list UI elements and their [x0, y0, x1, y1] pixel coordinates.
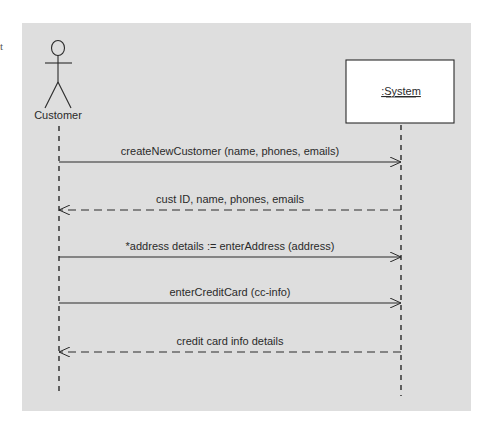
actor-label: Customer [34, 109, 82, 121]
message-enter-address: *address details := enterAddress (addres… [59, 240, 401, 257]
message-enter-credit-card: enterCreditCard (cc-info) [59, 286, 401, 303]
message-return-cust-id: cust ID, name, phones, emails [59, 193, 401, 210]
message-label: *address details := enterAddress (addres… [126, 240, 335, 252]
actor-customer: Customer [34, 41, 82, 122]
message-create-new-customer: createNewCustomer (name, phones, emails) [59, 145, 401, 162]
message-label: cust ID, name, phones, emails [156, 193, 304, 205]
stick-figure-icon [45, 41, 72, 109]
message-label: createNewCustomer (name, phones, emails) [121, 145, 339, 157]
sequence-diagram: Customer :System createNewCustomer (name… [0, 0, 490, 431]
object-system: :System [346, 60, 454, 123]
message-label: credit card info details [177, 335, 284, 347]
message-label: enterCreditCard (cc-info) [169, 286, 290, 298]
object-label: :System [381, 85, 421, 97]
message-return-credit-card-details: credit card info details [59, 335, 401, 352]
